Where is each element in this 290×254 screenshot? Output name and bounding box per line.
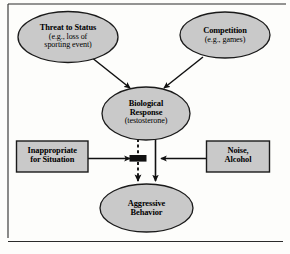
inhibition-bar bbox=[130, 155, 147, 162]
node-biological-response bbox=[102, 87, 190, 140]
connector-competition-to-biological bbox=[164, 57, 203, 88]
node-inappropriate-for-situation bbox=[17, 141, 89, 172]
diagram-graphics bbox=[0, 0, 290, 254]
diagram-canvas: Threat to Status (e.g., loss of sporting… bbox=[0, 0, 290, 254]
connector-threat-to-biological bbox=[91, 57, 130, 88]
node-threat-to-status bbox=[18, 12, 118, 63]
node-competition bbox=[180, 12, 270, 58]
node-noise-alcohol bbox=[207, 141, 270, 172]
node-aggressive-behavior bbox=[100, 184, 193, 232]
